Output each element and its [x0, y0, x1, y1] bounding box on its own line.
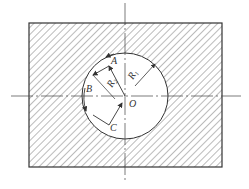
label-o: O — [129, 98, 136, 109]
label-a: A — [110, 55, 118, 66]
diagram-canvas: A B C O R 1 R 2 — [0, 0, 249, 189]
label-b: B — [86, 83, 92, 94]
label-c: C — [110, 122, 117, 133]
hatched-plate — [29, 23, 222, 167]
